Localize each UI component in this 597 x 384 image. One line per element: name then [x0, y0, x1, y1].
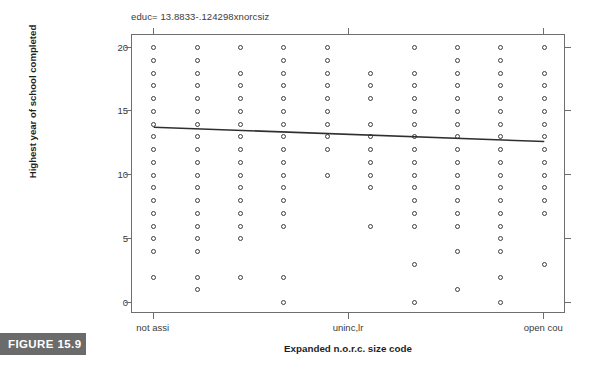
- y-axis-tick-label: 5: [90, 232, 128, 243]
- regression-line: [132, 35, 566, 314]
- y-axis-tick-label: 20: [90, 41, 128, 52]
- x-axis-title: Expanded n.o.r.c. size code: [131, 343, 565, 354]
- y-axis-tick-label: 0: [90, 296, 128, 307]
- x-axis-tick-label: open cou: [498, 322, 588, 333]
- x-axis-tick-label: not assi: [108, 322, 198, 333]
- y-axis-tick-label: 15: [90, 105, 128, 116]
- regression-equation-label: educ= 13.8833-.124298xnorcsiz: [131, 11, 269, 22]
- x-axis-tick-label: uninc,lr: [303, 322, 393, 333]
- y-axis-title: Highest year of school completed: [27, 2, 38, 202]
- plot-frame: [131, 34, 565, 313]
- figure-number-tag: FIGURE 15.9: [0, 333, 86, 355]
- y-axis-tick-label: 10: [90, 169, 128, 180]
